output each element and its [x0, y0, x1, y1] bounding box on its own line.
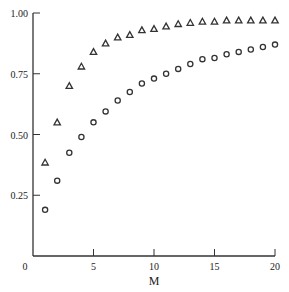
circle-marker — [260, 44, 265, 49]
circle-marker — [272, 42, 277, 47]
triangle-marker — [199, 18, 205, 24]
triangle-marker — [102, 40, 108, 46]
triangle-marker — [260, 17, 266, 23]
circle-marker — [139, 81, 144, 86]
x-tick-label: 10 — [149, 261, 159, 272]
y-axis-ticks: 0.250.500.751.00 — [11, 8, 41, 201]
triangle-marker — [139, 27, 145, 33]
y-tick-label: 0.50 — [11, 130, 29, 141]
circle-marker — [200, 57, 205, 62]
triangle-marker — [78, 63, 84, 69]
x-tick-label: 0 — [23, 261, 28, 272]
circle-marker — [164, 71, 169, 76]
series-triangles — [42, 17, 278, 165]
triangle-marker — [187, 20, 193, 26]
circle-marker — [67, 150, 72, 155]
triangle-marker — [236, 17, 242, 23]
circle-marker — [212, 55, 217, 60]
y-tick-label: 1.00 — [11, 8, 29, 19]
circle-marker — [188, 61, 193, 66]
data-points — [42, 17, 278, 212]
triangle-marker — [151, 26, 157, 32]
y-tick-label: 0.25 — [11, 190, 29, 201]
triangle-marker — [163, 23, 169, 29]
series-circles — [43, 42, 278, 212]
triangle-marker — [66, 83, 72, 89]
triangle-marker — [90, 49, 96, 55]
circle-marker — [127, 89, 132, 94]
circle-marker — [151, 76, 156, 81]
triangle-marker — [248, 17, 254, 23]
triangle-marker — [115, 34, 121, 40]
x-tick-label: 15 — [210, 261, 220, 272]
triangle-marker — [127, 32, 133, 38]
circle-marker — [103, 109, 108, 114]
x-tick-label: 20 — [270, 261, 280, 272]
circle-marker — [91, 120, 96, 125]
triangle-marker — [42, 159, 48, 165]
y-tick-label: 0.75 — [11, 69, 29, 80]
circle-marker — [176, 66, 181, 71]
x-axis-ticks: 05101520 — [23, 249, 281, 272]
circle-marker — [43, 207, 48, 212]
triangle-marker — [272, 17, 278, 23]
circle-marker — [79, 134, 84, 139]
x-tick-label: 5 — [91, 261, 96, 272]
x-axis-label: M — [149, 274, 160, 288]
scatter-chart: 0.250.500.751.00 05101520 M — [0, 0, 289, 292]
circle-marker — [248, 47, 253, 52]
triangle-marker — [223, 17, 229, 23]
triangle-marker — [211, 18, 217, 24]
circle-marker — [224, 52, 229, 57]
circle-marker — [55, 178, 60, 183]
circle-marker — [236, 49, 241, 54]
triangle-marker — [54, 119, 60, 125]
triangle-marker — [175, 21, 181, 27]
circle-marker — [115, 98, 120, 103]
